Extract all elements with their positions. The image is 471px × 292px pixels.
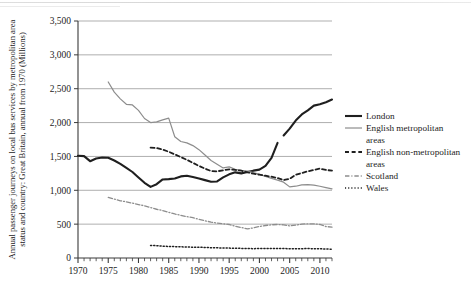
y-tick-label: 3,000 (50, 50, 72, 60)
y-tick-label: 0 (66, 253, 71, 263)
y-axis-title-line: Annual passenger journeys on local bus s… (7, 19, 17, 259)
x-tick-label: 1970 (69, 266, 88, 276)
legend-label: English metropolitan (366, 123, 444, 133)
scan-artifact-line (0, 2, 471, 3)
x-tick-label: 2005 (280, 266, 299, 276)
y-axis-title: Annual passenger journeys on local bus s… (7, 19, 27, 259)
y-tick-label: 1,000 (50, 186, 72, 196)
legend-label: London (366, 111, 395, 121)
series-line-london (78, 143, 278, 187)
x-tick-label: 1990 (189, 266, 208, 276)
x-axis-ticks: 197019751980198519901995200020052010 (69, 258, 333, 276)
x-tick-label: 2000 (250, 266, 269, 276)
legend-label-continued: areas (366, 159, 385, 169)
x-tick-label: 1975 (99, 266, 118, 276)
y-tick-label: 2,000 (50, 118, 72, 128)
legend-label-continued: areas (366, 135, 385, 145)
x-tick-label: 1995 (220, 266, 239, 276)
y-tick-label: 2,500 (50, 84, 72, 94)
axes (78, 21, 332, 258)
legend-label: Wales (366, 183, 389, 193)
series-line-wales (151, 245, 332, 249)
series-line-english-non-metropolitan-areas (151, 148, 332, 181)
series-line-london (284, 100, 332, 136)
x-tick-label: 1980 (129, 266, 148, 276)
legend-label: English non-metropolitan (366, 147, 461, 157)
y-tick-label: 3,500 (50, 16, 72, 26)
legend: LondonEnglish metropolitanareasEnglish n… (345, 111, 461, 193)
x-tick-label: 2010 (310, 266, 329, 276)
legend-label: Scotland (366, 171, 399, 181)
y-axis-ticks: 05001,0001,5002,0002,5003,0003,500 (50, 16, 78, 263)
series-line-english-metropolitan-areas (108, 82, 332, 189)
scan-artifact-line-secondary (0, 6, 120, 7)
y-tick-label: 500 (57, 220, 72, 230)
line-chart: 05001,0001,5002,0002,5003,0003,500197019… (0, 0, 471, 292)
y-tick-label: 1,500 (50, 152, 72, 162)
chart-figure: 05001,0001,5002,0002,5003,0003,500197019… (0, 0, 471, 292)
y-axis-title-line: status and country: Great Britain, annua… (17, 32, 27, 247)
x-tick-label: 1985 (159, 266, 178, 276)
